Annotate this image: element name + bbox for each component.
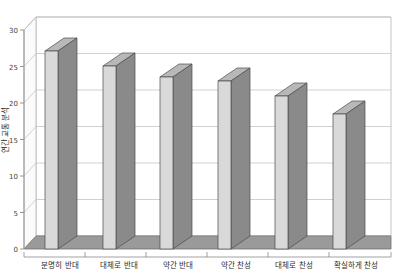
category-label-1: 분명히 반대 xyxy=(41,260,78,270)
ytick-label-25: 25 xyxy=(9,64,18,72)
category-label-5: 대체로 찬성 xyxy=(275,260,312,270)
bar-group-2 xyxy=(103,53,135,249)
bar-side-2 xyxy=(116,53,135,249)
bar-front-3 xyxy=(160,77,173,249)
bar-front-2 xyxy=(103,66,116,249)
bar-front-6 xyxy=(333,114,346,249)
category-label-3: 약간 반대 xyxy=(163,260,193,270)
bar-group-3 xyxy=(160,64,192,249)
bar-front-1 xyxy=(45,51,58,249)
bar-group-6 xyxy=(333,101,365,249)
bar-front-4 xyxy=(218,81,231,249)
category-label-2: 대체로 반대 xyxy=(100,260,137,270)
bar-chart-figure: 30 25 20 15 10 5 0 연간 교통 분석 xyxy=(0,0,403,279)
chart-canvas: 30 25 20 15 10 5 0 연간 교통 분석 xyxy=(0,0,403,279)
bar-side-4 xyxy=(231,68,250,249)
category-label-6: 확실하게 찬성 xyxy=(334,260,378,270)
bar-front-5 xyxy=(275,96,288,249)
bar-side-3 xyxy=(173,64,192,249)
ytick-label-20: 20 xyxy=(9,100,18,108)
bar-group-4 xyxy=(218,68,250,249)
bar-group-5 xyxy=(275,83,307,249)
bar-side-5 xyxy=(288,83,307,249)
ytick-label-15: 15 xyxy=(9,137,18,145)
bar-side-6 xyxy=(346,101,365,249)
ytick-label-30: 30 xyxy=(9,27,18,35)
category-label-4: 약간 찬성 xyxy=(221,260,251,270)
bar-group-1 xyxy=(45,38,77,249)
ytick-label-5: 5 xyxy=(14,210,18,218)
bar-side-1 xyxy=(58,38,77,249)
y-axis-title: 연간 교통 분석 xyxy=(0,107,10,154)
ytick-label-0: 0 xyxy=(14,246,18,254)
ytick-label-10: 10 xyxy=(9,173,18,181)
